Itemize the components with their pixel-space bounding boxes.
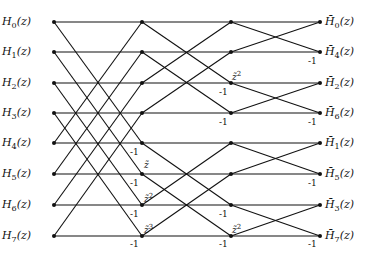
butterfly-flow-graph (0, 0, 374, 260)
flow-node (229, 111, 233, 115)
flow-node (318, 172, 322, 176)
stage2-minus-one-row3: -1 (219, 117, 228, 127)
flow-node (229, 203, 233, 207)
input-label-h0: H0(z) (2, 16, 31, 32)
stage2-minus-one-row7: -1 (219, 239, 228, 249)
flow-node (229, 172, 233, 176)
output-label-hbar2: H̄2(z) (325, 77, 354, 93)
flow-node (140, 172, 144, 176)
stage2-twiddle-row2: z̃2 (232, 69, 241, 82)
input-label-h1: H1(z) (2, 46, 31, 62)
input-label-h3: H3(z) (2, 107, 31, 123)
output-label-hbar5: H̄5(z) (325, 168, 354, 184)
stage1-twiddle-row7: z̃3 (144, 222, 153, 235)
input-label-h5: H5(z) (2, 168, 31, 184)
input-label-h4: H4(z) (2, 137, 31, 153)
stage1-minus-one-row6: -1 (130, 209, 139, 219)
flow-node (52, 141, 56, 145)
flow-node (52, 203, 56, 207)
input-label-h6: H6(z) (2, 199, 31, 215)
flow-node (140, 20, 144, 24)
stage3-minus-one-row1: -1 (308, 56, 317, 66)
flow-node (318, 111, 322, 115)
output-label-hbar7: H̄7(z) (325, 230, 354, 246)
stage2-minus-one-row2: -1 (219, 87, 228, 97)
stage2-minus-one-row6: -1 (219, 209, 228, 219)
stage3-minus-one-row5: -1 (308, 178, 317, 188)
flow-node (140, 141, 144, 145)
flow-node (140, 50, 144, 54)
flow-node (318, 50, 322, 54)
flow-node (318, 81, 322, 85)
output-label-hbar1: H̄1(z) (325, 137, 354, 153)
flow-node (52, 81, 56, 85)
stage2-twiddle-row7: z̃2 (232, 222, 241, 235)
output-label-hbar6: H̄6(z) (325, 107, 354, 123)
flow-node (318, 141, 322, 145)
flow-node (140, 81, 144, 85)
stage3-minus-one-row7: -1 (308, 239, 317, 249)
stage1-minus-one-row5: -1 (130, 178, 139, 188)
input-label-h7: H7(z) (2, 230, 31, 246)
flow-node (229, 50, 233, 54)
input-label-h2: H2(z) (2, 77, 31, 93)
flow-node (52, 50, 56, 54)
output-label-hbar0: H̄0(z) (325, 16, 354, 32)
flow-node (318, 203, 322, 207)
flow-node (52, 172, 56, 176)
flow-node (52, 20, 56, 24)
flow-node (229, 20, 233, 24)
stage1-twiddle-row6: z̃2 (144, 191, 153, 204)
flow-node (140, 111, 144, 115)
flow-node (318, 234, 322, 238)
flow-node (318, 20, 322, 24)
flow-node (52, 111, 56, 115)
output-label-hbar3: H̄3(z) (325, 199, 354, 215)
stage1-minus-one-row4: -1 (130, 147, 139, 157)
flow-node (52, 234, 56, 238)
stage1-minus-one-row7: -1 (130, 239, 139, 249)
output-label-hbar4: H̄4(z) (325, 46, 354, 62)
stage3-minus-one-row3: -1 (308, 117, 317, 127)
flow-node (229, 141, 233, 145)
stage1-twiddle-row5: z̃ (144, 160, 149, 170)
